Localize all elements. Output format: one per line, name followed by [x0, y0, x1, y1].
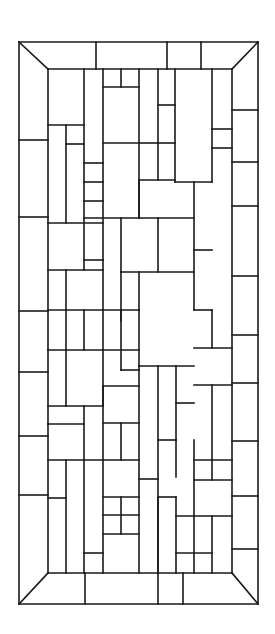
bevel-diagonal [232, 42, 258, 69]
interior-panes [48, 69, 232, 573]
stained-glass-drawing: Stained glass window pattern [0, 0, 275, 634]
bevel-diagonal [19, 42, 48, 69]
bevel-diagonal [232, 573, 258, 604]
bevel-diagonal [19, 573, 48, 604]
pattern-svg [0, 0, 275, 634]
